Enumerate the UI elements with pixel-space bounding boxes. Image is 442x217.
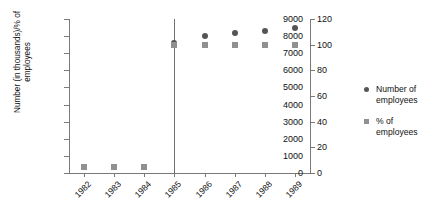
y-tick-right bbox=[310, 19, 315, 20]
x-tick bbox=[235, 173, 236, 177]
y-axis-left-line bbox=[69, 19, 70, 174]
x-tick-label: 1987 bbox=[220, 179, 244, 203]
y-tick-left bbox=[64, 53, 69, 54]
circle-marker-icon bbox=[364, 87, 369, 92]
y-tick-label-right: 20 bbox=[317, 142, 327, 152]
data-point-percent-of-employees bbox=[202, 42, 208, 48]
y-tick-label-left: 1000 bbox=[283, 151, 303, 161]
x-tick-label: 1985 bbox=[159, 179, 183, 203]
y-tick-label-right: 40 bbox=[317, 117, 327, 127]
data-point-percent-of-employees bbox=[111, 164, 117, 170]
x-tick bbox=[114, 173, 115, 177]
data-point-percent-of-employees bbox=[232, 42, 238, 48]
y-tick-label-right: 120 bbox=[317, 14, 332, 24]
x-tick-label: 1984 bbox=[129, 179, 153, 203]
y-tick-left bbox=[64, 36, 69, 37]
y-tick-left bbox=[64, 105, 69, 106]
y-tick-label-right: 100 bbox=[317, 40, 332, 50]
data-point-percent-of-employees bbox=[292, 42, 298, 48]
legend-label: % of employees bbox=[376, 116, 418, 137]
y-tick-label-left: 0 bbox=[298, 168, 303, 178]
x-axis-line bbox=[69, 173, 311, 174]
y-tick-right bbox=[310, 70, 315, 71]
y-tick-label-left: 9000 bbox=[283, 14, 303, 24]
y-tick-left bbox=[64, 87, 69, 88]
y-tick-left bbox=[64, 173, 69, 174]
y-tick-label-left: 3000 bbox=[283, 117, 303, 127]
legend-item-number-of-employees: Number of employees bbox=[364, 84, 418, 105]
x-tick-label: 1988 bbox=[250, 179, 274, 203]
y-tick-left bbox=[64, 122, 69, 123]
y-tick-left bbox=[64, 139, 69, 140]
y-tick-right bbox=[310, 122, 315, 123]
data-point-number-of-employees bbox=[202, 33, 208, 39]
x-tick bbox=[265, 173, 266, 177]
x-tick bbox=[144, 173, 145, 177]
legend-label: Number of employees bbox=[376, 84, 418, 105]
y-tick-right bbox=[310, 96, 315, 97]
data-point-number-of-employees bbox=[262, 28, 268, 34]
x-tick-label: 1982 bbox=[69, 179, 93, 203]
x-tick-label: 1986 bbox=[190, 179, 214, 203]
x-tick-label: 1983 bbox=[99, 179, 123, 203]
plot-area: 0100020003000400050006000700080009000 02… bbox=[69, 19, 310, 173]
y-tick-right bbox=[310, 173, 315, 174]
y-tick-right bbox=[310, 147, 315, 148]
y-tick-label-right: 80 bbox=[317, 65, 327, 75]
data-point-percent-of-employees bbox=[81, 164, 87, 170]
y-tick-left bbox=[64, 19, 69, 20]
legend-item-percent-of-employees: % of employees bbox=[364, 116, 418, 137]
y-tick-label-right: 0 bbox=[317, 168, 322, 178]
y-axis-title-left: Number (in thousands)/% of employees bbox=[13, 0, 33, 137]
data-point-percent-of-employees bbox=[141, 164, 147, 170]
y-tick-right bbox=[310, 45, 315, 46]
y-tick-label-left: 2000 bbox=[283, 134, 303, 144]
chart-container: Number (in thousands)/% of employees 010… bbox=[0, 0, 442, 217]
x-tick bbox=[84, 173, 85, 177]
data-point-percent-of-employees bbox=[171, 42, 177, 48]
y-tick-label-left: 5000 bbox=[283, 82, 303, 92]
data-point-number-of-employees bbox=[232, 30, 238, 36]
y-tick-label-left: 6000 bbox=[283, 65, 303, 75]
legend: Number of employees % of employees bbox=[364, 84, 418, 148]
y-tick-label-left: 4000 bbox=[283, 100, 303, 110]
x-tick bbox=[295, 173, 296, 177]
y-tick-left bbox=[64, 70, 69, 71]
x-tick bbox=[205, 173, 206, 177]
y-tick-label-left: 8000 bbox=[283, 31, 303, 41]
data-point-percent-of-employees bbox=[262, 42, 268, 48]
y-tick-left bbox=[64, 156, 69, 157]
y-tick-label-right: 60 bbox=[317, 91, 327, 101]
square-marker-icon bbox=[364, 119, 369, 124]
data-point-number-of-employees bbox=[292, 25, 298, 31]
x-tick-label: 1989 bbox=[280, 179, 304, 203]
y-tick-label-left: 7000 bbox=[283, 48, 303, 58]
